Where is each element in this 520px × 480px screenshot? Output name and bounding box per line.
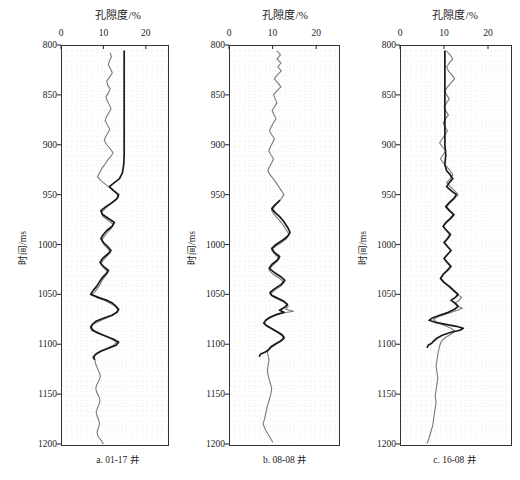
y-tick-label: 950 — [382, 190, 396, 200]
y-tick-label: 1050 — [377, 289, 396, 299]
y-tick-label: 850 — [211, 90, 225, 100]
y-tick-label: 950 — [43, 190, 57, 200]
panel-c-y-axis-label: 时间/ms — [355, 230, 369, 266]
y-tick-label: 1000 — [206, 240, 225, 250]
y-tick-label: 1200 — [377, 439, 396, 449]
panel-b-y-axis-label: 时间/ms — [184, 230, 198, 266]
panel-a-caption: a. 01-17 井 — [58, 452, 178, 466]
y-tick-label: 1100 — [38, 339, 57, 349]
y-tick-label: 1200 — [38, 439, 57, 449]
panel-c-grid — [401, 46, 511, 445]
panel-c-plot-area — [400, 45, 512, 446]
y-tick-label: 950 — [211, 190, 225, 200]
y-tick-label: 1150 — [206, 389, 225, 399]
panel-b-caption: b. 08-08 井 — [225, 452, 345, 466]
y-tick-label: 850 — [43, 90, 57, 100]
panel-b-plot-area — [229, 45, 340, 446]
y-tick-label: 1100 — [206, 339, 225, 349]
y-tick-label: 850 — [382, 90, 396, 100]
y-tick-label: 800 — [382, 40, 396, 50]
porosity-well-log-figure: 孔隙度/%01020800850900950100010501100115012… — [0, 0, 520, 480]
panel-b-grid — [230, 46, 339, 445]
panel-c-x-tick-labels: 01020 — [0, 28, 520, 40]
y-tick-label: 1000 — [38, 240, 57, 250]
panel-c-y-tick-labels: 80085090095010001050110011501200 — [372, 0, 396, 480]
x-tick-label: 0 — [398, 28, 403, 38]
x-tick-label: 20 — [483, 28, 493, 38]
panel-c-caption: c. 16-08 井 — [395, 452, 515, 466]
y-tick-label: 900 — [382, 140, 396, 150]
y-tick-label: 1000 — [377, 240, 396, 250]
panel-c-title: 孔隙度/% — [395, 6, 515, 22]
y-tick-label: 900 — [211, 140, 225, 150]
panel-a-y-tick-labels: 80085090095010001050110011501200 — [33, 0, 57, 480]
panel-b-title: 孔隙度/% — [225, 6, 345, 22]
y-tick-label: 1150 — [38, 389, 57, 399]
y-tick-label: 800 — [211, 40, 225, 50]
panel-a-plot-area — [61, 45, 169, 446]
panel-a-y-axis-label: 时间/ms — [15, 230, 29, 266]
panel-b-y-tick-labels: 80085090095010001050110011501200 — [201, 0, 225, 480]
y-tick-label: 1150 — [377, 389, 396, 399]
panel-a-grid — [62, 46, 168, 445]
panel-a-title: 孔隙度/% — [58, 6, 178, 22]
x-tick-label: 10 — [439, 28, 449, 38]
y-tick-label: 900 — [43, 140, 57, 150]
y-tick-label: 1050 — [38, 289, 57, 299]
y-tick-label: 1200 — [206, 439, 225, 449]
y-tick-label: 1100 — [377, 339, 396, 349]
y-tick-label: 800 — [43, 40, 57, 50]
y-tick-label: 1050 — [206, 289, 225, 299]
